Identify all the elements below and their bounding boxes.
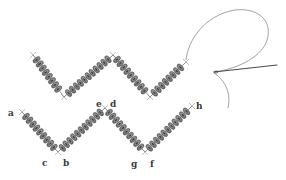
thread-tail-icon: [214, 73, 229, 108]
bead-strands: [19, 52, 195, 155]
label-f: f: [150, 160, 154, 169]
label-g: g: [131, 160, 137, 169]
beadwork-drawing: [0, 0, 286, 180]
bottom-strand: [19, 103, 195, 155]
label-d: d: [110, 100, 116, 109]
thread-and-needle: [186, 10, 277, 108]
beadwork-illustration: a e d h c b g f: [0, 0, 286, 180]
needle-icon: [214, 65, 277, 72]
label-h: h: [196, 102, 203, 111]
label-b: b: [63, 159, 69, 168]
label-c: c: [42, 159, 47, 168]
label-e: e: [96, 100, 102, 109]
thread-loop-icon: [186, 10, 268, 72]
label-a: a: [8, 109, 14, 118]
top-strand: [30, 52, 189, 100]
